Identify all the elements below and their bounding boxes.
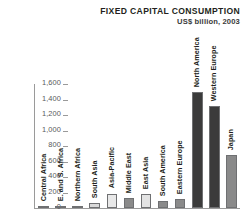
page-title: FIXED CAPITAL CONSUMPTION [20,6,240,16]
bar-group: Western Europe [209,84,220,208]
bar [158,201,169,208]
bar [124,198,135,208]
bar-category-label: Eastern Europe [177,141,184,195]
bar-group: Japan [226,84,237,208]
fixed-capital-consumption-chart: FIXED CAPITAL CONSUMPTION US$ billion, 2… [0,0,246,223]
bar-group: Central Africa [38,84,49,208]
chart-title-block: FIXED CAPITAL CONSUMPTION US$ billion, 2… [20,6,240,27]
bar-group: South America [158,84,169,208]
bar-group: Eastern Europe [175,84,186,208]
bar-category-label: Asia-Pacific [108,147,115,188]
bar [107,194,118,208]
chart-subtitle: US$ billion, 2003 [20,17,240,27]
bar-category-label: Middle East [125,152,132,193]
bar [226,155,237,208]
y-axis-tick-mark [63,208,68,209]
bar-group: Northern Africa [72,84,83,208]
bar-group: South Asia [89,84,100,208]
bar-category-label: North America [194,37,201,87]
bar-series: Central AfricaE. and S. AfricaNorthern A… [35,84,240,208]
bar [55,206,66,208]
bar-category-label: Central Africa [40,154,47,202]
bar [209,106,220,208]
bar-group: Asia-Pacific [107,84,118,208]
bar-category-label: Western Europe [211,46,218,102]
bar-category-label: East Asia [142,157,149,190]
bar-category-label: Japan [228,129,235,150]
bar-category-label: South America [160,145,167,196]
bar-group: E. and S. Africa [55,84,66,208]
bar [72,206,83,208]
bar-category-label: South Asia [91,161,98,199]
bar [38,206,49,208]
bar [192,92,203,208]
bar [141,194,152,208]
bar-group: East Asia [141,84,152,208]
bar [175,199,186,208]
bar-category-label: E. and S. Africa [57,148,64,201]
bar-group: North America [192,84,203,208]
bar [89,203,100,208]
bar-category-label: Northern Africa [74,148,81,201]
bar-group: Middle East [124,84,135,208]
